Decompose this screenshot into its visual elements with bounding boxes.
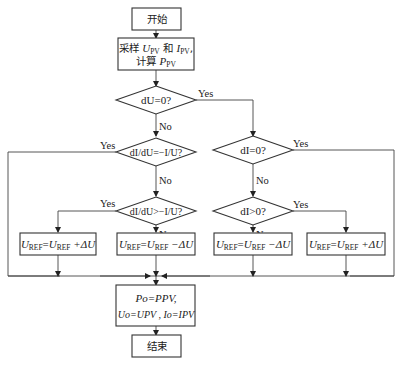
action-increase-right: UREF=UREF +ΔU <box>307 233 385 255</box>
svg-text:dI/dU=−I/U?: dI/dU=−I/U? <box>130 147 183 158</box>
yes-label-didu-gt: Yes <box>100 198 115 209</box>
svg-text:dI=0?: dI=0? <box>240 144 266 156</box>
decision-didu-greater: dI/dU>−I/U? <box>116 197 196 225</box>
sample-process-box: 采样 UPV 和 IPV, 计算 PPV <box>118 38 194 70</box>
action-increase-left: UREF=UREF +ΔU <box>20 233 96 255</box>
decision-di-greater: dI>0? <box>213 197 293 225</box>
yes-label-di-zero: Yes <box>293 138 308 149</box>
flowchart: 开始 采样 UPV 和 IPV, 计算 PPV dU=0? dI/dU=−I/U… <box>0 0 401 367</box>
update-line-2: Uo=UPV , Io=IPV <box>118 309 196 320</box>
no-label-didu-eq: No <box>159 175 172 186</box>
start-terminal: 开始 <box>132 8 181 30</box>
end-terminal: 结束 <box>132 335 181 357</box>
no-label-di-zero: No <box>256 175 269 186</box>
decision-didu-equal: dI/dU=−I/U? <box>116 138 196 166</box>
yes-label-didu-eq: Yes <box>100 140 115 151</box>
start-label: 开始 <box>147 13 168 25</box>
update-process-box: Po=PPV, Uo=UPV , Io=IPV <box>116 285 196 326</box>
svg-text:dI/dU>−I/U?: dI/dU>−I/U? <box>130 206 183 217</box>
svg-text:dU=0?: dU=0? <box>141 94 171 106</box>
connectors <box>8 30 394 335</box>
update-line-1: Po=PPV, <box>134 292 176 304</box>
svg-text:dI>0?: dI>0? <box>240 205 266 217</box>
yes-label-du: Yes <box>198 88 213 99</box>
action-decrease-right: UREF=UREF −ΔU <box>214 233 292 255</box>
decision-di-zero: dI=0? <box>213 136 293 164</box>
action-decrease-left: UREF=UREF −ΔU <box>117 233 195 255</box>
no-label-du: No <box>159 121 172 132</box>
decision-du-zero: dU=0? <box>116 86 196 114</box>
yes-label-di-gt: Yes <box>293 199 308 210</box>
end-label: 结束 <box>147 340 168 352</box>
